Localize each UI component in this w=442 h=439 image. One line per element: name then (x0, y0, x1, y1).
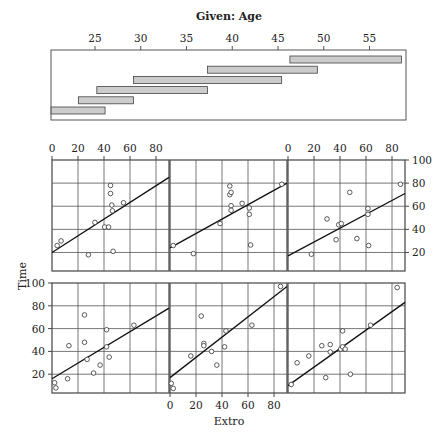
y-tick-label: 20 (412, 246, 425, 258)
given-age-panel: 25303540455055 (51, 32, 406, 120)
data-point (355, 236, 360, 241)
data-point (229, 190, 234, 195)
panel-frame (288, 160, 405, 271)
x-tick-label: 40 (333, 142, 346, 154)
data-point (218, 221, 223, 226)
data-point (171, 386, 176, 391)
data-point (59, 239, 64, 244)
given-tick-label: 35 (180, 32, 193, 44)
y-tick-label: 80 (412, 177, 425, 189)
data-point (347, 190, 352, 195)
data-point (398, 182, 403, 187)
data-point (91, 371, 96, 376)
data-point (108, 191, 113, 196)
data-point (98, 363, 103, 368)
data-point (250, 323, 255, 328)
coplot-chart: 25303540455055 2040608010002040608002040… (0, 0, 442, 439)
data-point (106, 225, 111, 230)
data-point (171, 243, 176, 248)
data-point (309, 252, 314, 257)
data-point (54, 386, 59, 391)
data-point (339, 221, 344, 226)
given-tick-label: 40 (226, 32, 239, 44)
data-point (248, 243, 253, 248)
data-point (82, 340, 87, 345)
data-point (209, 349, 214, 354)
x-tick-label: 20 (71, 142, 84, 154)
y-tick-label: 60 (32, 323, 45, 335)
y-tick-label: 40 (32, 345, 45, 357)
scatter-panel: 020406080 (49, 142, 169, 271)
data-point (108, 183, 113, 188)
y-axis-label: Time (16, 262, 29, 290)
data-point (247, 206, 252, 211)
scatter-panel (170, 160, 287, 271)
data-point (82, 313, 87, 318)
data-point (110, 203, 115, 208)
y-tick-label: 60 (412, 200, 425, 212)
y-tick-label: 20 (32, 368, 45, 380)
data-point (202, 343, 207, 348)
scatter-panels: 2040608010002040608002040608002040608020… (25, 142, 432, 411)
data-point (86, 252, 91, 257)
data-point (289, 382, 294, 387)
data-point (67, 343, 72, 348)
data-point (169, 381, 174, 386)
given-interval-bar (51, 107, 105, 114)
x-tick-label: 0 (285, 142, 292, 154)
x-tick-label: 0 (49, 142, 56, 154)
data-point (348, 372, 353, 377)
data-point (65, 376, 70, 381)
data-point (104, 345, 109, 350)
x-tick-label: 60 (359, 142, 372, 154)
given-interval-bar (79, 97, 134, 104)
data-point (240, 201, 245, 206)
data-point (93, 220, 98, 225)
data-point (366, 243, 371, 248)
data-point (191, 251, 196, 256)
data-point (278, 284, 283, 289)
data-point (325, 217, 330, 222)
x-tick-label: 40 (215, 399, 228, 411)
y-tick-label: 100 (412, 154, 432, 166)
data-point (295, 361, 300, 366)
data-point (343, 347, 348, 352)
data-point (132, 323, 137, 328)
given-tick-label: 50 (317, 32, 330, 44)
data-point (366, 212, 371, 217)
data-point (52, 380, 57, 385)
scatter-panel: 20406080100 (25, 277, 169, 393)
x-tick-label: 20 (189, 399, 202, 411)
data-point (85, 357, 90, 362)
data-point (229, 208, 234, 213)
data-point (111, 249, 116, 254)
y-tick-label: 80 (32, 300, 45, 312)
given-interval-bar (208, 66, 318, 73)
x-tick-label: 60 (123, 142, 136, 154)
data-point (215, 363, 220, 368)
data-point (328, 350, 333, 355)
data-point (104, 327, 109, 332)
given-tick-label: 45 (271, 32, 284, 44)
data-point (107, 355, 112, 360)
x-tick-label: 40 (97, 142, 110, 154)
data-point (328, 342, 333, 347)
given-tick-label: 55 (363, 32, 376, 44)
data-point (320, 343, 325, 348)
data-point (229, 203, 234, 208)
data-point (189, 354, 194, 359)
x-tick-label: 0 (167, 399, 174, 411)
scatter-panel (288, 283, 405, 393)
given-interval-bar (290, 56, 402, 63)
x-axis-label: Extro (214, 415, 245, 428)
data-point (121, 200, 126, 205)
data-point (280, 182, 285, 187)
data-point (307, 354, 312, 359)
given-interval-bar (97, 87, 208, 94)
panel-frame (288, 283, 405, 393)
given-tick-label: 25 (88, 32, 101, 44)
given-interval-bar (133, 76, 281, 83)
data-point (222, 345, 227, 350)
data-point (110, 209, 115, 214)
x-tick-label: 80 (149, 142, 162, 154)
